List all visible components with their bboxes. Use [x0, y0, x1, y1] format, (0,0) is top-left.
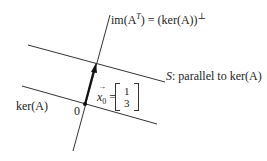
origin-label: 0	[74, 105, 80, 117]
matrix-entry: 3	[124, 97, 130, 109]
vector-x: x	[97, 90, 102, 104]
arrowhead-icon	[91, 63, 97, 73]
kernel-label: ker(A)	[16, 100, 48, 112]
vector-matrix: 1 3	[115, 83, 139, 111]
s-desc: : parallel to ker(A)	[172, 69, 262, 83]
vector-label: →x0 =	[97, 90, 116, 106]
s-label: S: parallel to ker(A)	[166, 70, 262, 82]
vector-sub: 0	[102, 97, 106, 106]
image-rest-text: ) = (ker(A))	[141, 13, 198, 27]
affine-line-s	[28, 45, 165, 82]
matrix-cells: 1 3	[120, 85, 134, 109]
vector-x0	[85, 70, 94, 104]
origin-point	[83, 102, 87, 106]
right-bracket	[134, 83, 139, 111]
image-line-label: im(AT) = (ker(A))⊥	[111, 12, 206, 26]
vector-arrow-icon: →	[98, 82, 106, 91]
perp-sup: ⊥	[198, 11, 206, 21]
image-text: im(A	[111, 13, 136, 27]
matrix-entry: 1	[124, 85, 130, 97]
vector-name: →x	[97, 90, 102, 104]
